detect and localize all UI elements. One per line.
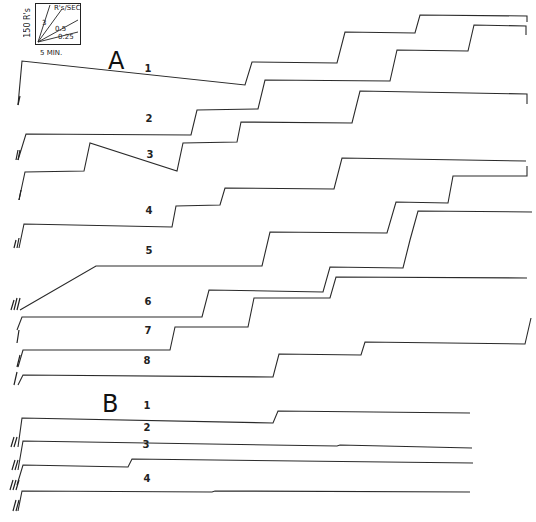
legend-y-scale: 150 R's [23,8,32,38]
legend-rate-title: R's/SEC [54,4,81,12]
curve-label-b-1: 1 [144,400,151,411]
curve-a-4 [19,158,526,248]
curve-label-a-7: 7 [145,325,152,336]
curve-b-3 [17,459,473,485]
curve-a-3 [19,91,527,200]
panel-a-curves [17,15,532,385]
curve-label-a-5: 5 [146,245,153,256]
curve-a-6 [17,211,532,330]
curve-label-b-3: 3 [143,439,150,450]
curve-b-2 [18,441,472,470]
curve-label-a-2: 2 [146,113,153,124]
panel-b-curves [17,411,473,511]
cumulative-record-chart [0,0,536,522]
curve-label-a-4: 4 [146,205,153,216]
curve-a-7 [18,277,527,367]
curve-a-8 [18,318,531,385]
curve-label-b-4: 4 [144,473,151,484]
curve-label-a-6: 6 [145,296,152,307]
curve-label-a-3: 3 [147,149,154,160]
curve-a-1 [18,15,527,105]
legend-rate-0-5: 0.5 [55,25,66,33]
curve-a-5 [20,166,527,310]
curve-b-4 [18,491,470,511]
panel-label-b: B [102,390,118,418]
curve-label-b-2: 2 [144,422,151,433]
legend-rate-0-25: 0.25 [58,33,74,41]
reset-hatch-marks [10,96,21,511]
curve-label-a-1: 1 [145,63,152,74]
legend-x-scale: 5 MIN. [40,49,62,57]
legend-rate-3: 3 [42,19,46,27]
curve-label-a-8: 8 [144,355,151,366]
panel-label-a: A [108,47,124,75]
